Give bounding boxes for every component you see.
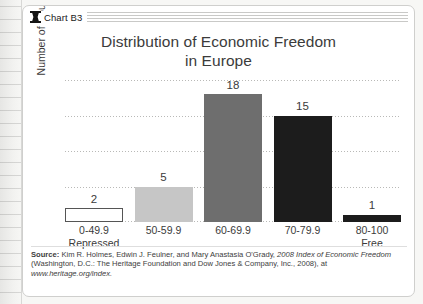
- chart-header-title: Chart B3: [44, 12, 82, 23]
- source-prefix: Source:: [31, 250, 59, 259]
- bar-slot: 18: [204, 80, 262, 222]
- figure-title: Distribution of Economic Freedom in Euro…: [23, 32, 414, 70]
- source-authors: Kim R. Holmes, Edwin J. Feulner, and Mar…: [59, 250, 277, 259]
- bar: [343, 215, 401, 222]
- bar: [135, 187, 193, 223]
- source-title-part2: Freedom: [361, 250, 391, 259]
- figure-title-line1: Distribution of Economic Freedom: [101, 33, 336, 50]
- bar-value-label: 1: [343, 199, 401, 212]
- bell-icon: [30, 11, 41, 23]
- x-axis-label-range: 0-49.9: [79, 224, 109, 236]
- x-axis-label-range: 50-59.9: [146, 224, 182, 236]
- bar-value-label: 15: [274, 100, 332, 113]
- figure-title-line2: in Europe: [23, 51, 414, 70]
- x-axis-label-range: 70-79.9: [285, 224, 321, 236]
- x-axis-label-sub: Free: [343, 237, 401, 250]
- bar: [274, 116, 332, 223]
- screenshot-root: Chart B3 Distribution of Economic Freedo…: [0, 0, 423, 304]
- bar-slot: 5: [135, 80, 193, 222]
- bar-slot: 2: [65, 80, 123, 222]
- bar-series: 2 5 18 15 1: [65, 80, 401, 222]
- bar-value-label: 2: [65, 193, 123, 206]
- chart-panel: Chart B3 Distribution of Economic Freedo…: [22, 5, 415, 297]
- source-note: Source: Kim R. Holmes, Edwin J. Feulner,…: [31, 250, 407, 278]
- source-divider: [31, 246, 407, 247]
- bar-value-label: 18: [204, 79, 262, 92]
- bar-value-label: 5: [135, 171, 193, 184]
- bar: [204, 94, 262, 222]
- plot-area: 2 5 18 15 1: [65, 80, 401, 222]
- scan-edge-artifact: [0, 0, 22, 304]
- bar-slot: 15: [274, 80, 332, 222]
- x-axis-label-range: 60-69.9: [215, 224, 251, 236]
- x-axis-label-sub: Repressed: [65, 237, 123, 250]
- plot-wrapper: Number of Countries 2 5: [39, 80, 401, 222]
- bar-slot: 1: [343, 80, 401, 222]
- bar: [65, 208, 123, 222]
- source-url: www.heritage.org/index.: [31, 269, 112, 278]
- chart-header-label: Chart B3: [30, 11, 87, 23]
- source-title-part1: 2008 Index of Economic: [277, 250, 358, 259]
- x-axis-label-range: 80-100: [356, 224, 389, 236]
- y-axis-holder: Number of Countries: [39, 80, 59, 222]
- source-publisher: (Washington, D.C.: The Heritage Foundati…: [31, 259, 327, 268]
- chart-header: Chart B3: [23, 6, 414, 28]
